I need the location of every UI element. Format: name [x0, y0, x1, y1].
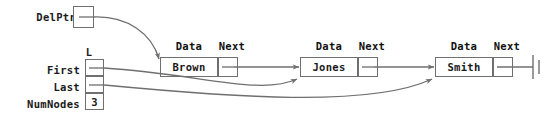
arrow-delptr-to-node-1 [94, 17, 159, 59]
arrow-first-to-node-2 [104, 68, 297, 85]
linked-list-diagram: DelPtr L First Last NumNodes 3 Data Next… [0, 0, 557, 124]
connector-layer [0, 0, 557, 124]
arrow-last-to-node-3 [104, 79, 432, 97]
